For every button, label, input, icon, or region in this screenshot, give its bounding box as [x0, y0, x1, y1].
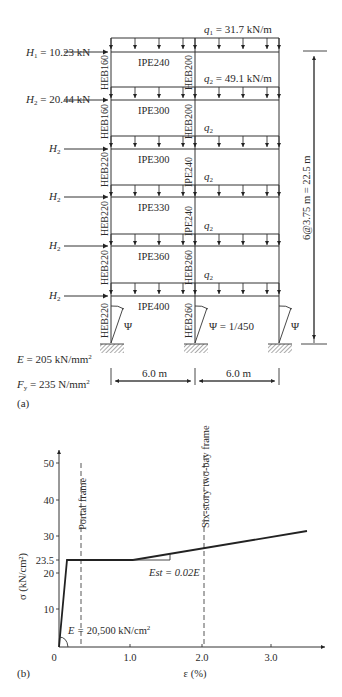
beam-label-5: IPE300 — [138, 105, 170, 116]
outer-column-label-4: HEB220 — [99, 152, 110, 187]
stress-strain-chart: 50 40 30 23.5 20 10 0 1.0 2.0 3.0 σ (kN/… — [17, 425, 325, 680]
y-tick-40: 40 — [44, 495, 55, 506]
q2-label-4: q2 — [204, 170, 214, 184]
beam-label-3: IPE330 — [138, 202, 170, 213]
h2-label: H2 = 20.44 kN — [25, 93, 90, 107]
bay-dimension-left: 6.0 m — [142, 367, 168, 379]
inner-column-label-5: HEB200 — [183, 104, 194, 139]
q2-label-6: q2 — [204, 268, 214, 282]
figure-a-label: (a) — [17, 397, 30, 410]
x-tick-2: 2.0 — [195, 652, 208, 663]
six-story-frame-label: Six-story two-bay frame — [200, 425, 211, 528]
x-tick-0: 0 — [51, 652, 56, 663]
inner-column-label-4: IPE240 — [183, 157, 194, 187]
h1-label: H1 = 10.23 kN — [25, 46, 90, 60]
inner-column-label-2: HEB260 — [183, 250, 194, 285]
yield-stress-label: Fy = 235 N/mm2 — [16, 378, 90, 392]
y-tick-10: 10 — [44, 604, 55, 615]
outer-column-label-2: HEB220 — [99, 250, 110, 285]
figure-b-label: (b) — [17, 667, 30, 680]
h2-label-6: H2 — [48, 289, 61, 303]
h2-label-3: H2 — [48, 142, 61, 156]
beam-label-1: IPE400 — [138, 301, 170, 312]
psi-middle: Ψ = 1/450 — [209, 320, 254, 332]
height-dimension-label: 6@3.75 m = 22.5 m — [301, 156, 312, 240]
x-axis-label: ε (%) — [184, 668, 207, 680]
outer-column-label-6: HEB160 — [99, 55, 110, 90]
y-tick-23-5: 23.5 — [36, 555, 54, 566]
psi-right: Ψ — [291, 320, 300, 332]
inner-column-label-3: IPE240 — [183, 206, 194, 236]
portal-frame-label: Portal frame — [77, 477, 88, 530]
outer-column-label-1: HEB220 — [99, 303, 110, 338]
beam-label-4: IPE300 — [138, 154, 170, 165]
psi-left: Ψ — [124, 320, 133, 332]
h2-label-4: H2 — [48, 190, 61, 204]
q2-label: q2 = 49.1 kN/m — [204, 72, 272, 86]
inner-column-label-6: HEB200 — [183, 55, 194, 90]
x-tick-3: 3.0 — [264, 652, 277, 663]
elastic-modulus-label: E = 205 kN/mm2 — [16, 353, 92, 365]
bay-dimension-right: 6.0 m — [226, 367, 252, 379]
y-tick-30: 30 — [44, 531, 55, 542]
q2-label-3: q2 — [204, 121, 214, 135]
y-tick-20: 20 — [44, 568, 55, 579]
figure-canvas: H1 = 10.23 kN H2 = 20.44 kN H2 H2 H2 H2 … — [0, 0, 342, 697]
q2-label-5: q2 — [204, 219, 214, 233]
y-axis-label: σ (kN/cm²) — [17, 552, 29, 600]
bay-dimensions — [111, 368, 279, 385]
beam-label-roof: IPE240 — [138, 57, 170, 68]
outer-column-label-5: HEB160 — [99, 104, 110, 139]
y-tick-50: 50 — [44, 458, 55, 469]
q1-label: q1 = 31.7 kN/m — [204, 23, 272, 37]
h2-label-5: H2 — [48, 239, 61, 253]
beam-label-2: IPE360 — [138, 251, 170, 262]
inner-column-label-1: HEB260 — [183, 303, 194, 338]
outer-column-label-3: HEB220 — [99, 201, 110, 236]
hardening-modulus-label: Est = 0.02E — [148, 567, 200, 578]
elastic-modulus-annotation: E = 20,500 kN/cm2 — [67, 624, 151, 636]
x-tick-1: 1.0 — [123, 652, 136, 663]
